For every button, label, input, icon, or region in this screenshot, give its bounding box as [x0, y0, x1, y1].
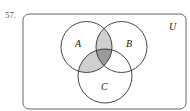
- set-b-label: B: [126, 38, 132, 49]
- set-a-label: A: [74, 38, 82, 49]
- venn-diagram: A B C U: [0, 0, 190, 111]
- universe-label: U: [169, 21, 177, 32]
- set-c-label: C: [101, 81, 108, 92]
